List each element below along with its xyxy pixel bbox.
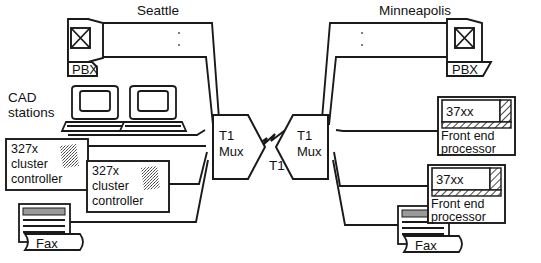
- seattle-site-label: Seattle: [137, 3, 179, 18]
- ellipsis-dot: [361, 32, 363, 34]
- front-end-processor-1[interactable]: 37xx Front end processor: [438, 97, 515, 156]
- ellipsis-dot: [178, 44, 180, 46]
- minneapolis-site-label: Minneapolis: [379, 3, 451, 18]
- cad-station-1[interactable]: [62, 86, 128, 131]
- ellipsis-dot: [361, 44, 363, 46]
- cluster-controller-1-line1: 327x: [11, 142, 39, 156]
- ellipsis-dot: [178, 32, 180, 34]
- hatched-cabinet-icon-side: [490, 168, 501, 190]
- cad-stations-label-line1: CAD: [8, 90, 37, 105]
- cluster-controller-1[interactable]: 327x cluster controller: [6, 139, 88, 190]
- cluster-controller-1-line2: cluster: [11, 157, 48, 171]
- pbx-left-label: PBX: [72, 62, 98, 77]
- monitor-screen: [80, 91, 110, 111]
- hatched-cabinet-icon-side: [500, 100, 511, 122]
- mux-right-label-line1: T1: [297, 128, 312, 143]
- mux-right-label-line2: Mux: [297, 144, 322, 159]
- cluster-controller-2-line2: cluster: [92, 179, 129, 193]
- front-end-processor-2[interactable]: 37xx Front end processor: [428, 165, 505, 224]
- monitor-screen: [138, 91, 168, 111]
- cluster-controller-2[interactable]: 327x cluster controller: [87, 161, 169, 212]
- fep1-model-label: 37xx: [446, 104, 474, 119]
- fax-right-label: Fax: [415, 238, 437, 253]
- fep2-label-line1: Front end: [431, 197, 485, 211]
- fep1-trunk: [336, 130, 438, 131]
- fep2-model-label: 37xx: [436, 172, 464, 187]
- fep1-label-line2: processor: [441, 142, 496, 156]
- cad-station-2[interactable]: [120, 86, 186, 131]
- cluster-controller-2-line3: controller: [92, 194, 143, 208]
- fep2-label-line2: processor: [431, 210, 486, 224]
- hatched-cabinet-icon-base: [432, 190, 501, 196]
- fax-left-header-strip: [23, 208, 65, 215]
- fax-left-label: Fax: [36, 236, 58, 251]
- pbx-right-label: PBX: [452, 62, 478, 77]
- diagram-canvas: Seattle Minneapolis PBX PBX CAD stations: [0, 0, 541, 263]
- network-diagram: Seattle Minneapolis PBX PBX CAD stations: [0, 0, 541, 263]
- fep1-label-line1: Front end: [441, 129, 495, 143]
- cluster-controller-1-line3: controller: [11, 172, 62, 186]
- hatched-cabinet-icon-base: [442, 122, 511, 128]
- textured-square-icon: [60, 144, 79, 168]
- cad-stations-label-line2: stations: [8, 105, 55, 120]
- textured-square-icon: [141, 166, 160, 190]
- mux-left-label-line1: T1: [219, 128, 234, 143]
- cluster-controller-2-line1: 327x: [92, 164, 120, 178]
- mux-left-label-line2: Mux: [219, 144, 244, 159]
- pbx-left[interactable]: PBX: [68, 19, 103, 77]
